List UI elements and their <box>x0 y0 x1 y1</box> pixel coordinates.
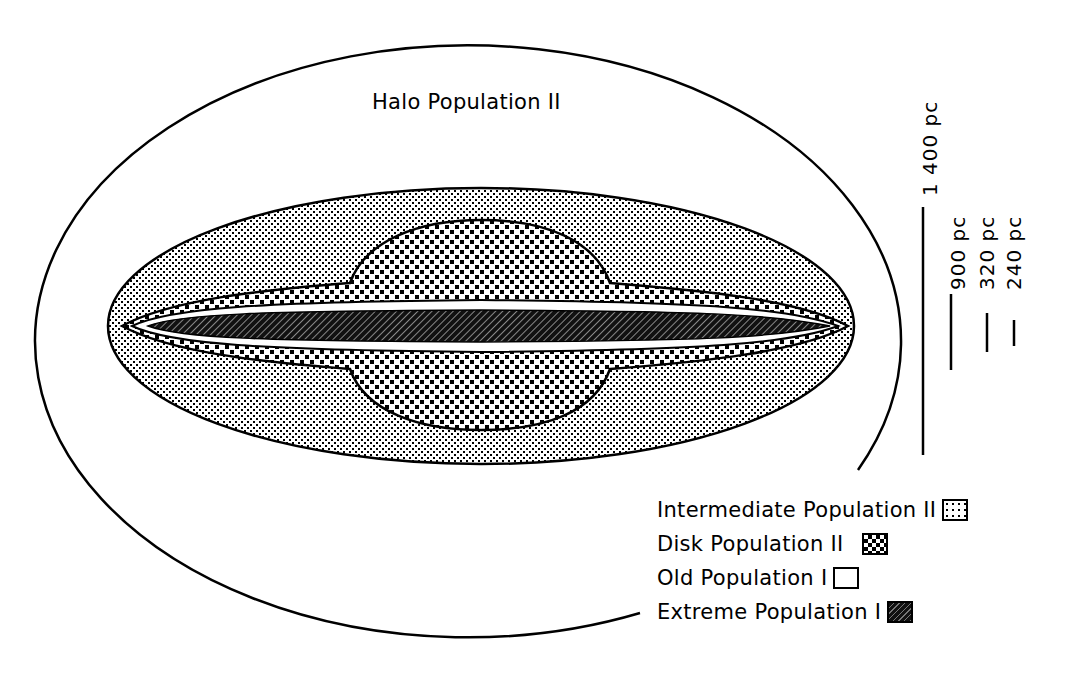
halo-population-label: Halo Population II <box>372 92 561 113</box>
legend-label: Old Population I <box>657 566 827 590</box>
dotted-swatch-icon <box>942 499 968 521</box>
scale-label-240pc: 240 pc <box>1004 216 1024 290</box>
scale-label-320pc: 320 pc <box>977 216 997 290</box>
legend: Intermediate Population II Disk Populati… <box>657 493 968 629</box>
scale-label-1400pc: 1 400 pc <box>920 101 940 196</box>
legend-item-extreme: Extreme Population I <box>657 595 968 629</box>
scale-label-900pc: 900 pc <box>948 216 968 290</box>
legend-label: Extreme Population I <box>657 600 881 624</box>
legend-label: Intermediate Population II <box>657 498 936 522</box>
legend-item-old: Old Population I <box>657 561 968 595</box>
blank-swatch-icon <box>833 567 859 589</box>
legend-item-disk: Disk Population II <box>657 527 968 561</box>
checker-swatch-icon <box>862 533 888 555</box>
extreme-population-region <box>148 310 830 342</box>
legend-label: Disk Population II <box>657 532 844 556</box>
hatched-swatch-icon <box>887 601 913 623</box>
legend-item-intermediate: Intermediate Population II <box>657 493 968 527</box>
